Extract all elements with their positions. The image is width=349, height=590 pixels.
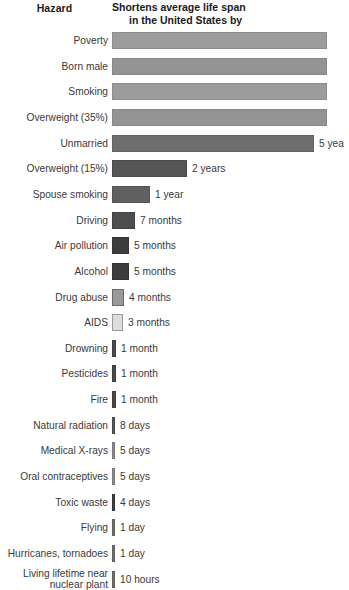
row-label: Drug abuse	[0, 287, 108, 309]
chart-row: Driving7 months	[0, 210, 341, 232]
chart-row: Toxic waste4 days	[0, 492, 341, 514]
row-label: Living lifetime nearnuclear plant	[0, 568, 108, 590]
chart-row: Oral contraceptives5 days	[0, 466, 341, 488]
bar	[112, 545, 115, 562]
bar-value-label: 8 days	[120, 415, 150, 436]
chart-row: Poverty	[0, 30, 341, 52]
bar	[112, 160, 187, 177]
bar-value-label: 5 months	[134, 235, 176, 256]
row-label: Drowning	[0, 338, 108, 360]
chart-row: Smoking	[0, 81, 341, 103]
bar-value-label: 2 years	[192, 158, 225, 179]
row-label: Air pollution	[0, 235, 108, 257]
chart-row: AIDS3 months	[0, 312, 341, 334]
bar	[112, 494, 115, 511]
row-label: AIDS	[0, 312, 108, 334]
bar	[112, 109, 327, 126]
row-label: Hurricanes, tornadoes	[0, 543, 108, 565]
row-label-line1: Living lifetime near	[0, 568, 108, 580]
row-label: Overweight (15%)	[0, 158, 108, 180]
row-label-line2: nuclear plant	[0, 579, 108, 590]
chart-row: Air pollution5 months	[0, 235, 341, 257]
chart-row: Living lifetime nearnuclear plant10 hour…	[0, 569, 341, 590]
row-label: Flying	[0, 517, 108, 539]
chart-row: Fire1 month	[0, 389, 341, 411]
bar	[112, 32, 327, 49]
chart-row: Drowning1 month	[0, 338, 341, 360]
row-label: Alcohol	[0, 261, 108, 283]
chart-row: Medical X-rays5 days	[0, 440, 341, 462]
bar-value-label: 4 days	[120, 492, 150, 513]
row-label: Oral contraceptives	[0, 466, 108, 488]
chart-row: Overweight (35%)	[0, 107, 341, 129]
bar	[112, 442, 115, 459]
bar	[112, 237, 129, 254]
bar-value-label: 1 month	[121, 363, 158, 384]
row-label: Driving	[0, 210, 108, 232]
bar	[112, 83, 327, 100]
bar-value-label: 1 month	[121, 338, 158, 359]
bar-value-label: 5 yea	[319, 133, 344, 154]
column-header-line2: in the United States by	[112, 14, 349, 27]
row-label: Born male	[0, 56, 108, 78]
chart-row: Spouse smoking1 year	[0, 184, 341, 206]
chart-row: Flying1 day	[0, 517, 341, 539]
bar-value-label: 4 months	[129, 287, 171, 308]
bar-value-label: 1 day	[120, 517, 145, 538]
column-header-hazard: Hazard	[0, 2, 109, 14]
bar	[112, 340, 116, 357]
bar	[112, 314, 123, 331]
chart-row: Pesticides1 month	[0, 363, 341, 385]
bar	[112, 417, 115, 434]
row-label: Toxic waste	[0, 492, 108, 514]
bar	[112, 186, 150, 203]
row-label: Fire	[0, 389, 108, 411]
row-label: Unmarried	[0, 133, 108, 155]
row-label: Medical X-rays	[0, 440, 108, 462]
bar	[112, 135, 314, 152]
bar-value-label: 1 year	[155, 184, 183, 205]
chart-row: Drug abuse4 months	[0, 287, 341, 309]
bar	[112, 519, 115, 536]
bar-value-label: 5 months	[134, 261, 176, 282]
column-header-shortens-life-span: Shortens average life span in the United…	[112, 1, 349, 26]
bar	[112, 212, 135, 229]
row-label: Smoking	[0, 81, 108, 103]
bar-value-label: 10 hours	[120, 569, 160, 590]
chart-row: Born male	[0, 56, 341, 78]
row-label: Pesticides	[0, 363, 108, 385]
bar	[112, 58, 327, 75]
bar	[112, 571, 115, 588]
bar-value-label: 1 day	[120, 543, 145, 564]
bar	[112, 263, 129, 280]
column-header-line1: Shortens average life span	[112, 1, 349, 14]
row-label: Poverty	[0, 30, 108, 52]
row-label: Natural radiation	[0, 415, 108, 437]
bar-value-label: 5 days	[120, 440, 150, 461]
bar	[112, 468, 115, 485]
bar-value-label: 1 month	[121, 389, 158, 410]
chart-row: Alcohol5 months	[0, 261, 341, 283]
bar	[112, 365, 116, 382]
bar	[112, 289, 124, 306]
row-label: Spouse smoking	[0, 184, 108, 206]
bar-value-label: 3 months	[128, 312, 170, 333]
bar-value-label: 5 days	[120, 466, 150, 487]
row-label: Overweight (35%)	[0, 107, 108, 129]
bar	[112, 391, 116, 408]
chart-row: Unmarried5 yea	[0, 133, 341, 155]
chart-row: Natural radiation8 days	[0, 415, 341, 437]
chart-row: Overweight (15%)2 years	[0, 158, 341, 180]
bar-value-label: 7 months	[140, 210, 182, 231]
chart-row: Hurricanes, tornadoes1 day	[0, 543, 341, 565]
